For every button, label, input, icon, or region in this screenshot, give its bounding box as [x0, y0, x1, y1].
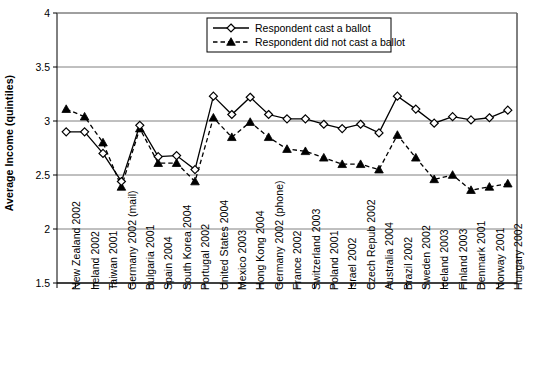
data-point-marker: [264, 133, 273, 141]
y-tick-label: 4: [44, 7, 50, 19]
data-point-marker: [136, 121, 144, 129]
data-point-marker: [449, 113, 457, 121]
y-tick-label: 1.5: [35, 277, 50, 289]
data-point-marker: [246, 118, 255, 126]
legend-label: Respondent did not cast a ballot: [255, 36, 405, 48]
data-point-marker: [504, 179, 513, 187]
series-line: [66, 96, 508, 181]
data-point-marker: [467, 186, 476, 194]
y-axis-tick-labels: 1.522.533.54: [18, 0, 54, 285]
data-point-marker: [467, 116, 475, 124]
data-point-marker: [283, 115, 291, 123]
y-tick-label: 2: [44, 223, 50, 235]
data-point-marker: [80, 112, 89, 120]
legend-label: Respondent cast a ballot: [255, 22, 371, 34]
y-axis-title: Average Income (quintiles): [0, 0, 18, 285]
data-point-marker: [375, 129, 383, 137]
legend-box: Respondent cast a ballotRespondent did n…: [207, 18, 405, 52]
y-tick-label: 3: [44, 115, 50, 127]
data-point-marker: [62, 128, 70, 136]
chart-container: Average Income (quintiles) 1.522.533.54 …: [0, 0, 533, 389]
data-point-marker: [154, 153, 162, 161]
data-point-marker: [62, 105, 71, 113]
data-point-marker: [320, 153, 329, 161]
data-point-marker: [301, 115, 309, 123]
data-point-marker: [209, 113, 218, 121]
y-tick-label: 3.5: [35, 61, 50, 73]
data-point-marker: [191, 177, 200, 185]
data-point-marker: [283, 145, 292, 153]
data-point-marker: [356, 160, 365, 168]
chart-plot-area: Respondent cast a ballotRespondent did n…: [0, 0, 533, 389]
y-tick-label: 2.5: [35, 169, 50, 181]
data-point-marker: [393, 92, 401, 100]
data-point-marker: [504, 106, 512, 114]
series-voted: [62, 92, 512, 185]
x-tick-marks: [57, 283, 517, 288]
data-point-marker: [338, 125, 346, 133]
data-point-marker: [393, 131, 402, 139]
